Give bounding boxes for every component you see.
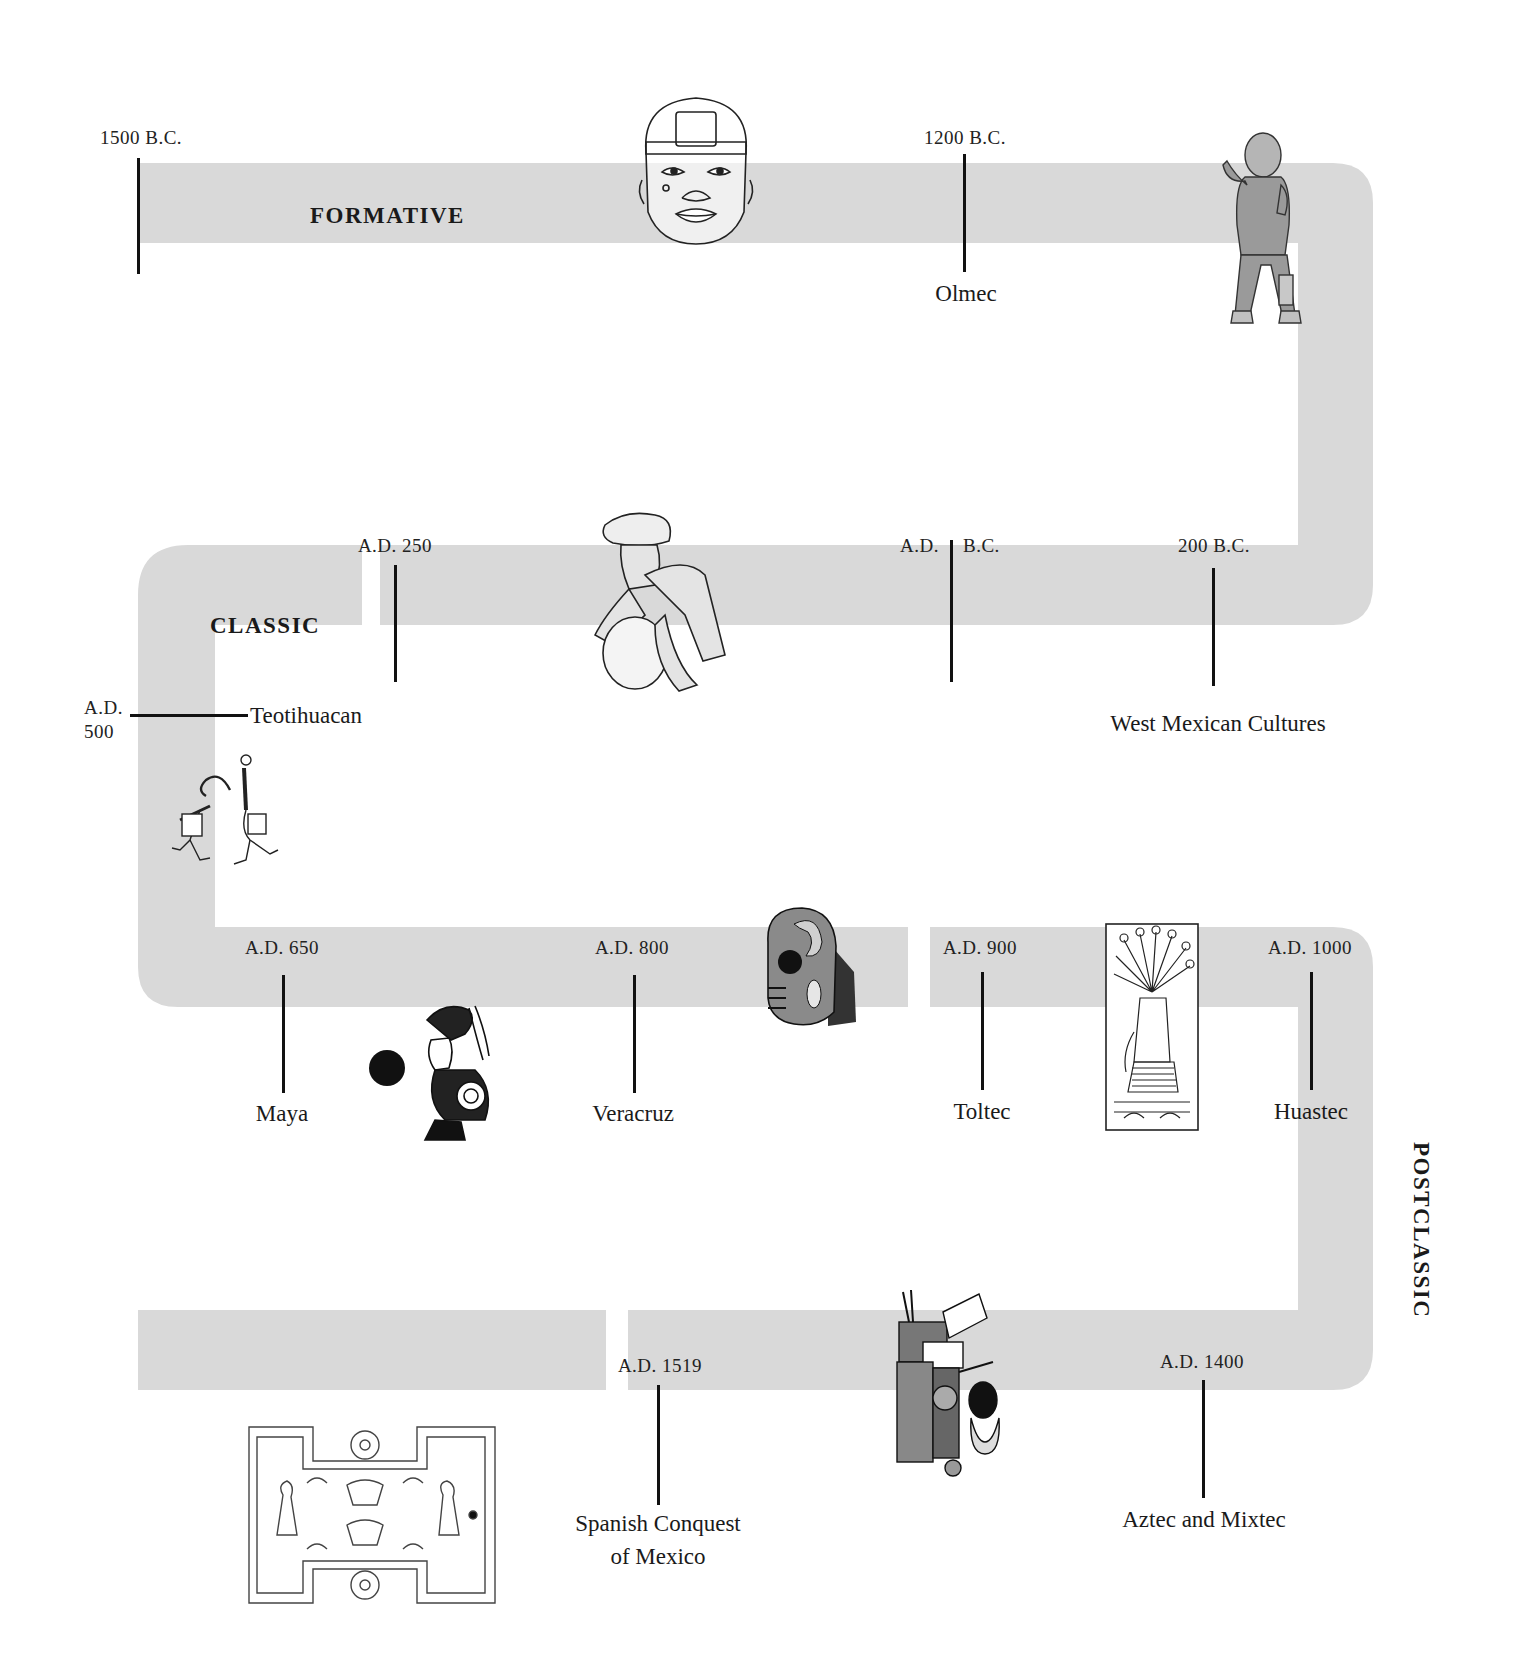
aztec-codex-deity-icon [883, 1282, 1013, 1482]
olmec-colossal-head-icon [632, 92, 760, 252]
olmec-figurine-icon [1205, 125, 1315, 330]
tick-1519-ad [657, 1385, 660, 1505]
date-500-ad-year: 500 [84, 722, 114, 741]
culture-toltec: Toltec [953, 1100, 1010, 1123]
tick-900-ad [981, 972, 984, 1090]
period-postclassic: POSTCLASSIC [1410, 1142, 1433, 1318]
date-800-ad: A.D. 800 [595, 938, 669, 957]
date-1000-ad: A.D. 1000 [1268, 938, 1352, 957]
tick-200-bc [1212, 568, 1215, 686]
culture-west-mexican: West Mexican Cultures [1110, 712, 1325, 735]
date-650-ad: A.D. 650 [245, 938, 319, 957]
culture-spanish-conquest-line2: of Mexico [610, 1545, 705, 1568]
date-1400-ad: A.D. 1400 [1160, 1352, 1244, 1371]
tick-500-ad [130, 714, 248, 717]
tick-ad-bc-boundary [950, 540, 953, 682]
culture-veracruz: Veracruz [592, 1102, 674, 1125]
era-bc-label: B.C. [963, 536, 1000, 555]
tick-1200-bc [963, 154, 966, 272]
tick-1000-ad [1310, 972, 1313, 1090]
ballcourt-codex-icon [247, 1425, 497, 1605]
timeline-diagram: 1500 B.C. FORMATIVE 1200 B.C. Olmec [0, 0, 1540, 1677]
veracruz-hacha-icon [758, 902, 863, 1032]
tick-800-ad [633, 975, 636, 1093]
tick-650-ad [282, 975, 285, 1093]
culture-spanish-conquest-line1: Spanish Conquest [575, 1512, 740, 1535]
tick-250-ad [394, 565, 397, 682]
date-250-ad: A.D. 250 [358, 536, 432, 555]
period-classic: CLASSIC [210, 614, 320, 637]
date-1500-bc: 1500 B.C. [100, 128, 182, 147]
period-formative: FORMATIVE [310, 204, 465, 227]
culture-olmec: Olmec [935, 282, 996, 305]
date-1200-bc: 1200 B.C. [924, 128, 1006, 147]
tick-1400-ad [1202, 1380, 1205, 1498]
culture-aztec-mixtec: Aztec and Mixtec [1122, 1508, 1285, 1531]
date-500-ad-era: A.D. [84, 698, 123, 717]
date-1519-ad: A.D. 1519 [618, 1356, 702, 1375]
teotihuacan-ballplayers-icon [160, 750, 310, 910]
era-ad-label: A.D. [900, 536, 939, 555]
date-200-bc: 200 B.C. [1178, 536, 1250, 555]
date-900-ad: A.D. 900 [943, 938, 1017, 957]
culture-huastec: Huastec [1274, 1100, 1348, 1123]
tick-1500-bc [137, 158, 140, 274]
culture-maya: Maya [256, 1102, 308, 1125]
maya-ballplayer-icon [365, 1000, 515, 1145]
huastec-relief-icon [1104, 922, 1200, 1132]
culture-teotihuacan: Teotihuacan [250, 704, 362, 727]
west-mexican-figure-icon [585, 505, 735, 705]
